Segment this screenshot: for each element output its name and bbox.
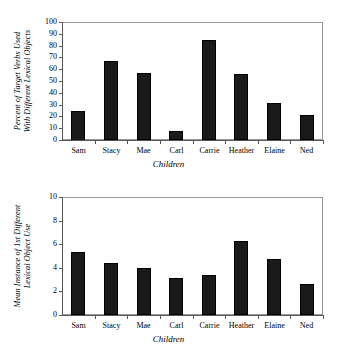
y-axis-tick [59,244,62,245]
y-axis-tick [59,221,62,222]
bar [300,284,314,315]
x-axis-tick [127,141,128,144]
x-axis-tick-label: Carrie [193,321,226,330]
y-axis-tick [59,22,62,23]
x-axis-tick [225,141,226,144]
y-axis-title: Mean Instance of 1st Different Lexical O… [13,190,35,322]
y-axis-tick-label: 4 [26,264,57,272]
bar [71,111,85,141]
bar [137,73,151,140]
figure: Percent of Target Verbs Used With Differ… [0,0,337,350]
y-axis-title-line1: Percent of Target Verbs Used [13,15,23,147]
x-axis-tick-label: Sam [62,146,95,155]
bar [137,268,151,315]
y-axis-tick-label: 40 [26,89,57,97]
bar [71,252,85,315]
y-axis-title-line2: Lexical Object Use [23,190,33,322]
y-axis-tick [59,291,62,292]
y-axis-tick [59,69,62,70]
x-axis-tick-label: Carl [160,321,193,330]
y-axis-tick [59,93,62,94]
chart-mean-instance-first-use: Mean Instance of 1st Different Lexical O… [0,175,337,350]
bar [169,131,183,140]
x-axis-tick [193,316,194,319]
y-axis-tick-label: 0 [26,136,57,144]
x-axis-tick-label: Ned [290,321,323,330]
bar [104,61,118,140]
y-axis-tick-label: 6 [26,240,57,248]
bar [300,115,314,140]
bar [234,241,248,315]
x-axis-tick-label: Mae [127,146,160,155]
x-axis-tick [95,141,96,144]
y-axis-tick [59,128,62,129]
plot-area [62,197,323,315]
y-axis-tick [59,34,62,35]
x-axis-tick [225,316,226,319]
x-axis-tick-label: Mae [127,321,160,330]
x-axis-tick-label: Heather [225,146,258,155]
x-axis-tick [290,141,291,144]
y-axis-title-line1: Mean Instance of 1st Different [13,190,23,322]
y-axis-tick-label: 30 [26,101,57,109]
y-axis-tick-label: 0 [26,311,57,319]
x-axis-tick [95,316,96,319]
y-axis-tick [59,268,62,269]
y-axis-line [62,197,63,316]
bar [202,40,216,140]
bar [267,103,281,140]
bar [202,275,216,315]
y-axis-tick-label: 60 [26,65,57,73]
y-axis-tick-label: 50 [26,77,57,85]
y-axis-tick-label: 20 [26,112,57,120]
y-axis-tick-label: 80 [26,42,57,50]
x-axis-tick [127,316,128,319]
y-axis-tick [59,46,62,47]
bar [104,263,118,315]
y-axis-line [62,22,63,141]
x-axis-tick-label: Elaine [258,146,291,155]
y-axis-tick-label: 100 [26,18,57,26]
y-axis-tick [59,197,62,198]
x-axis-tick-label: Ned [290,146,323,155]
x-axis-tick [193,141,194,144]
y-axis-tick [59,116,62,117]
x-axis-tick-label: Carrie [193,146,226,155]
x-axis-title: Children [0,334,337,344]
y-axis-tick [59,57,62,58]
bar [267,259,281,315]
y-axis-tick-label: 70 [26,53,57,61]
x-axis-tick [258,141,259,144]
y-axis-tick [59,81,62,82]
x-axis-tick-label: Elaine [258,321,291,330]
y-axis-tick-label: 90 [26,30,57,38]
x-axis-tick-label: Stacy [95,146,128,155]
x-axis-tick-label: Sam [62,321,95,330]
y-axis-tick-label: 10 [26,124,57,132]
y-axis-tick-label: 8 [26,217,57,225]
plot-area [62,22,323,140]
x-axis-tick-label: Heather [225,321,258,330]
x-axis-tick [290,316,291,319]
bar [169,278,183,315]
x-axis-title: Children [0,159,337,169]
chart-percent-target-verbs: Percent of Target Verbs Used With Differ… [0,0,337,175]
y-axis-tick [59,105,62,106]
x-axis-tick [160,141,161,144]
x-axis-tick-label: Stacy [95,321,128,330]
x-axis-tick [258,316,259,319]
x-axis-tick [323,316,324,319]
y-axis-tick-label: 10 [26,193,57,201]
x-axis-tick [323,141,324,144]
bar [234,74,248,140]
y-axis-tick-label: 2 [26,287,57,295]
x-axis-tick-label: Carl [160,146,193,155]
x-axis-tick [160,316,161,319]
